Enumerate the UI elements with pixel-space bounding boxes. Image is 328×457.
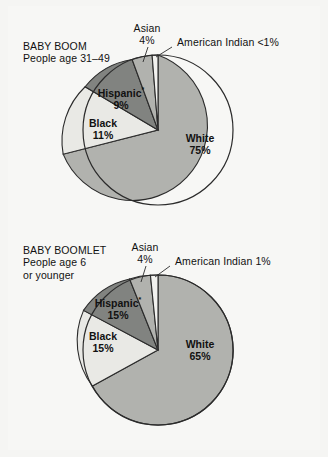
hispanic-asterisk-boom: * (142, 86, 145, 93)
label-hispanic-boomlet: Hispanic* 15% (85, 296, 151, 321)
asian-name-boomlet: Asian (132, 241, 159, 253)
label-asian-boom: Asian 4% (119, 22, 175, 47)
chart-title-baby-boomlet: BABY BOOMLET People age 6 or younger (23, 244, 106, 281)
hispanic-asterisk-boomlet: * (139, 296, 142, 303)
white-pct-boom: 75% (175, 144, 225, 156)
asian-pct-boom: 4% (119, 34, 175, 46)
label-black-boomlet: Black 15% (77, 330, 129, 355)
figure-root: BABY BOOM People age 31–49 Asian 4% Amer… (0, 0, 328, 457)
american-indian-text-boomlet: American Indian 1% (175, 255, 271, 267)
subtitle-text-boomlet-2: or younger (23, 269, 74, 281)
american-indian-text-boom: American Indian <1% (177, 36, 279, 48)
pie-charts-svg (0, 0, 328, 457)
asian-pct-boomlet: 4% (117, 253, 173, 265)
white-name-boom: White (186, 132, 215, 144)
label-hispanic-boom: Hispanic* 9% (88, 86, 154, 111)
black-pct-boomlet: 15% (77, 342, 129, 354)
black-name-boomlet: Black (89, 330, 117, 342)
label-asian-boomlet: Asian 4% (117, 241, 173, 266)
white-pct-boomlet: 65% (175, 350, 225, 362)
hispanic-name-boom: Hispanic (98, 87, 142, 99)
label-white-boom: White 75% (175, 132, 225, 157)
hispanic-pct-boom: 9% (88, 99, 154, 111)
title-text-boom: BABY BOOM (23, 40, 87, 52)
label-white-boomlet: White 65% (175, 338, 225, 363)
subtitle-text-boomlet-1: People age 6 (23, 256, 86, 268)
chart-title-baby-boom: BABY BOOM People age 31–49 (23, 40, 110, 65)
label-american-indian-boomlet: American Indian 1% (175, 255, 271, 267)
asian-name-boom: Asian (134, 22, 161, 34)
black-name-boom: Black (89, 117, 117, 129)
title-text-boomlet: BABY BOOMLET (23, 244, 106, 256)
subtitle-text-boom: People age 31–49 (23, 52, 110, 64)
hispanic-name-boomlet: Hispanic (95, 297, 139, 309)
white-name-boomlet: White (186, 338, 215, 350)
label-black-boom: Black 11% (77, 117, 129, 142)
label-american-indian-boom: American Indian <1% (177, 36, 279, 48)
black-pct-boom: 11% (77, 129, 129, 141)
hispanic-pct-boomlet: 15% (85, 309, 151, 321)
